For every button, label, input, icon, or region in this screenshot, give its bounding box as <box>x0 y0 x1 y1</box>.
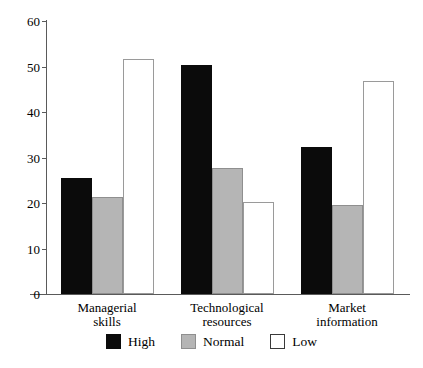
legend-swatch-low <box>270 334 285 349</box>
y-axis-tick-label: 60 <box>27 15 40 28</box>
bar-low <box>363 81 394 294</box>
bar-normal <box>212 168 243 294</box>
legend-label-high: High <box>128 335 155 349</box>
legend-item-normal[interactable]: Normal <box>181 334 244 349</box>
y-axis-tick-label: 40 <box>27 106 40 119</box>
bar-high <box>61 178 92 294</box>
y-axis-tick-mark <box>42 112 47 113</box>
x-axis-category-label: Technological resources <box>167 301 287 329</box>
y-axis-tick-label: 50 <box>27 60 40 73</box>
x-axis-category-label: Managerial skills <box>47 301 167 329</box>
y-axis-tick-mark <box>42 294 47 295</box>
legend-label-normal: Normal <box>203 335 244 349</box>
legend-label-low: Low <box>292 335 317 349</box>
bar-chart: 0102030405060 Managerial skillsTechnolog… <box>0 0 423 368</box>
x-axis-line <box>30 294 410 295</box>
y-axis-tick-label: 10 <box>27 242 40 255</box>
x-axis-category-label: Market information <box>287 301 407 329</box>
legend-item-high[interactable]: High <box>106 334 155 349</box>
legend-swatch-high <box>106 334 121 349</box>
bar-normal <box>92 197 123 294</box>
legend-swatch-normal <box>181 334 196 349</box>
bar-low <box>123 59 154 294</box>
chart-legend: HighNormalLow <box>0 334 423 349</box>
y-axis-tick-mark <box>42 21 47 22</box>
y-axis-tick-mark <box>42 158 47 159</box>
y-axis-tick-label: 20 <box>27 197 40 210</box>
plot-area: 0102030405060 <box>47 21 407 294</box>
y-axis-tick-label: 30 <box>27 151 40 164</box>
y-axis-tick-mark <box>42 67 47 68</box>
y-axis-tick-mark <box>42 249 47 250</box>
bar-high <box>181 65 212 294</box>
y-axis-tick-mark <box>42 203 47 204</box>
bar-normal <box>332 205 363 294</box>
bar-high <box>301 147 332 294</box>
legend-item-low[interactable]: Low <box>270 334 317 349</box>
y-axis-tick-label: 0 <box>34 288 41 301</box>
bar-low <box>243 202 274 294</box>
